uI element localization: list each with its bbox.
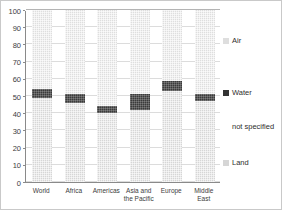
x-tick-label: World: [25, 187, 58, 195]
x-axis: WorldAfricaAmericasAsia and the PacificE…: [25, 185, 220, 209]
legend-item-not-specified[interactable]: not specified: [223, 123, 274, 131]
bar-segment-water[interactable]: [130, 94, 150, 109]
bar-segment-water[interactable]: [65, 94, 85, 103]
bar-segment-water[interactable]: [97, 106, 117, 113]
bar-segment-land[interactable]: [65, 103, 85, 182]
legend-item-land[interactable]: Land: [223, 159, 249, 167]
gridline-40: [26, 112, 220, 113]
bar-column[interactable]: [162, 10, 182, 182]
x-tick-label: Middle East: [188, 187, 221, 203]
bar-segment-air[interactable]: [162, 10, 182, 81]
y-tick-label: 50: [13, 93, 21, 101]
gridline-60: [26, 78, 220, 79]
bar-segment-air[interactable]: [97, 10, 117, 106]
gridline-50: [26, 95, 220, 96]
gridline-100: [26, 9, 220, 10]
y-tick-label: 10: [13, 162, 21, 170]
bar-column[interactable]: [97, 10, 117, 182]
bar-segment-air[interactable]: [130, 10, 150, 94]
chart-legend: AirWaternot specifiedLand: [223, 11, 281, 183]
bar-segment-water[interactable]: [195, 94, 215, 101]
legend-label: Air: [232, 37, 241, 45]
x-tick-label: Americas: [90, 187, 123, 195]
y-tick-label: 60: [13, 76, 21, 84]
gridline-0: [26, 181, 220, 182]
gridline-20: [26, 147, 220, 148]
legend-swatch-icon: [223, 38, 229, 44]
gridline-80: [26, 43, 220, 44]
legend-swatch-icon: [223, 124, 229, 130]
y-tick-label: 40: [13, 110, 21, 118]
legend-swatch-icon: [223, 90, 229, 96]
y-tick-label: 90: [13, 24, 21, 32]
bar-column[interactable]: [65, 10, 85, 182]
bar-segment-land[interactable]: [195, 101, 215, 182]
x-tick-label: Europe: [155, 187, 188, 195]
legend-label: Land: [232, 159, 249, 167]
bar-segment-air[interactable]: [195, 10, 215, 94]
bar-segment-air[interactable]: [32, 10, 52, 89]
bar-segment-land[interactable]: [130, 110, 150, 182]
y-tick-label: 0: [17, 179, 21, 187]
gridline-30: [26, 129, 220, 130]
bar-segment-land[interactable]: [162, 91, 182, 182]
y-tick-label: 100: [8, 7, 21, 15]
legend-swatch-icon: [223, 160, 229, 166]
x-tick-label: Asia and the Pacific: [123, 187, 156, 203]
legend-item-air[interactable]: Air: [223, 37, 241, 45]
bar-segment-water[interactable]: [32, 89, 52, 98]
bar-segment-land[interactable]: [97, 113, 117, 182]
bar-column[interactable]: [130, 10, 150, 182]
plot-area: [25, 11, 220, 183]
legend-label: not specified: [232, 123, 274, 131]
x-tick-label: Africa: [58, 187, 91, 195]
chart-container: 0102030405060708090100 WorldAfricaAmeric…: [0, 0, 282, 210]
y-tick-label: 30: [13, 128, 21, 136]
y-tick-label: 70: [13, 59, 21, 67]
legend-item-water[interactable]: Water: [223, 89, 252, 97]
bar-column[interactable]: [195, 10, 215, 182]
gridline-70: [26, 61, 220, 62]
y-axis: 0102030405060708090100: [1, 11, 23, 183]
legend-label: Water: [232, 89, 252, 97]
bar-column[interactable]: [32, 10, 52, 182]
bar-segment-air[interactable]: [65, 10, 85, 94]
gridline-10: [26, 164, 220, 165]
gridline-90: [26, 26, 220, 27]
y-tick-label: 80: [13, 42, 21, 50]
bar-segment-land[interactable]: [32, 98, 52, 182]
bar-segment-water[interactable]: [162, 81, 182, 91]
y-tick-label: 20: [13, 145, 21, 153]
